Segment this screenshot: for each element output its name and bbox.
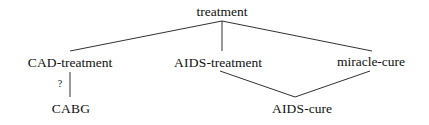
node-cabg: CABG <box>52 100 90 116</box>
node-treatment: treatment <box>197 5 248 19</box>
edge-label-question-mark: ? <box>58 78 62 89</box>
node-aids-treatment: AIDS-treatment <box>174 54 262 70</box>
node-treatment-label: treatment <box>197 4 248 19</box>
edge-label-question-mark-text: ? <box>58 78 62 89</box>
edge-miracle-cure-aids-cure <box>295 71 370 97</box>
edge-treatment-cad-treatment <box>70 21 222 51</box>
node-aids-cure-caps: AIDS <box>272 101 304 116</box>
node-cad-treatment-caps: CAD <box>28 55 57 70</box>
node-cad-treatment-rest: -treatment <box>57 55 112 70</box>
node-aids-cure-rest: -cure <box>304 101 332 116</box>
taxonomy-diagram: treatment CAD-treatment AIDS-treatment m… <box>0 0 429 125</box>
node-miracle-cure-label: miracle-cure <box>337 54 405 69</box>
node-cabg-label: CABG <box>52 101 90 116</box>
node-miracle-cure: miracle-cure <box>337 55 405 69</box>
edge-treatment-miracle-cure <box>222 21 372 51</box>
node-aids-treatment-rest: -treatment <box>206 55 261 70</box>
node-cad-treatment: CAD-treatment <box>28 54 113 70</box>
node-aids-cure: AIDS-cure <box>272 100 332 116</box>
node-aids-treatment-caps: AIDS <box>174 55 206 70</box>
edge-aids-treatment-aids-cure <box>220 71 295 97</box>
